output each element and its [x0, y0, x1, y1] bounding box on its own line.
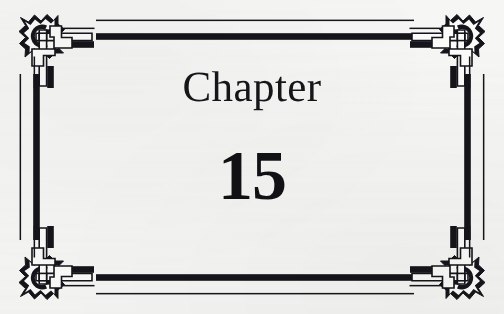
chapter-opening-page: Chapter 15: [0, 0, 504, 314]
corner-ornament-bottom-right: [410, 226, 486, 300]
decorative-frame: [0, 0, 504, 314]
decorative-frame-svg: [0, 0, 504, 314]
corner-ornament-bottom-left: [19, 226, 95, 300]
border-rule-bottom: [96, 274, 414, 294]
border-rule-left: [20, 74, 40, 240]
corner-ornament-top-right: [410, 15, 486, 89]
border-rule-top: [96, 20, 414, 40]
border-rule-right: [464, 74, 484, 240]
corner-ornament-top-left: [19, 15, 95, 89]
